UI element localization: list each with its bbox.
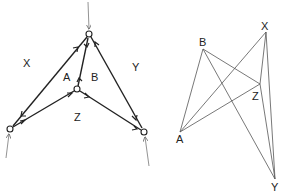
input-arrow-right — [145, 137, 149, 166]
left-diagram: X A B Y Z — [6, 2, 149, 166]
label-b: B — [91, 71, 98, 83]
label-b: B — [199, 36, 206, 48]
label-x: X — [23, 57, 31, 69]
edge-center-left — [13, 91, 74, 127]
edge-x-z — [260, 32, 266, 84]
label-a: A — [176, 133, 184, 145]
node-left — [7, 126, 13, 132]
edge-b-z — [203, 49, 260, 84]
node-center — [74, 86, 80, 92]
input-arrow-left — [6, 134, 9, 158]
input-arrow-top — [88, 2, 89, 29]
node-right — [141, 129, 147, 135]
label-z: Z — [74, 111, 81, 123]
arrowhead-icon — [95, 42, 99, 47]
edge-x-a — [180, 32, 266, 132]
label-y: Y — [271, 181, 279, 193]
node-top — [86, 31, 92, 37]
label-a: A — [63, 71, 71, 83]
label-z: Z — [252, 90, 259, 102]
label-x: X — [261, 20, 269, 32]
diagram-canvas: X A B Y Z X B Z A Y — [0, 0, 282, 194]
edge-x-y — [266, 32, 275, 179]
edge-b-y — [203, 49, 275, 179]
edge-z-a — [180, 84, 260, 132]
right-diagram — [180, 32, 275, 179]
edge-b-a — [180, 49, 203, 132]
label-y: Y — [132, 61, 140, 73]
